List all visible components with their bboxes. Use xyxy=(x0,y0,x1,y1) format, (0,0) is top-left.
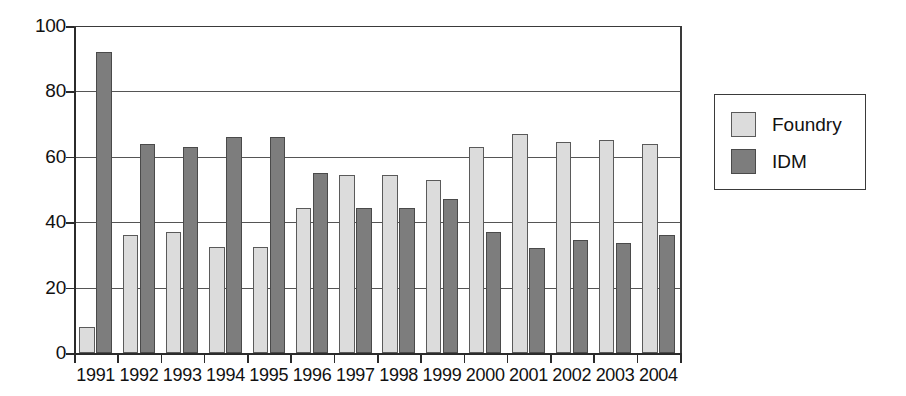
x-tick-mark xyxy=(464,354,466,363)
x-tick-mark xyxy=(161,354,163,363)
y-tick-label: 60 xyxy=(14,147,66,166)
x-tick-mark xyxy=(247,354,249,363)
bar-foundry-2000 xyxy=(469,147,485,353)
bar-foundry-1994 xyxy=(209,247,225,353)
bar-foundry-1991 xyxy=(79,327,95,353)
bar-foundry-2002 xyxy=(556,142,572,353)
legend-label-idm: IDM xyxy=(772,152,807,171)
y-tick-label: 80 xyxy=(14,81,66,100)
x-tick-label: 2004 xyxy=(632,364,684,386)
legend-swatch-idm-icon xyxy=(731,149,756,174)
legend-entry-idm: IDM xyxy=(731,149,807,174)
legend: Foundry IDM xyxy=(714,94,866,190)
y-tick-label: 100 xyxy=(14,16,66,35)
bars-layer xyxy=(74,26,680,353)
bar-idm-1996 xyxy=(313,173,329,353)
bar-foundry-1993 xyxy=(166,232,182,353)
bar-idm-1995 xyxy=(270,137,286,353)
bar-idm-2000 xyxy=(486,232,502,353)
bar-foundry-2003 xyxy=(599,140,615,353)
legend-swatch-foundry-icon xyxy=(731,112,756,137)
bar-foundry-1997 xyxy=(339,175,355,353)
x-tick-mark xyxy=(550,354,552,363)
bar-idm-1999 xyxy=(443,199,459,353)
bar-idm-1991 xyxy=(96,52,112,353)
x-tick-mark xyxy=(507,354,509,363)
y-tick-label: 40 xyxy=(14,212,66,231)
x-tick-mark xyxy=(637,354,639,363)
plot-region: 020406080100 199119921993199419951996199… xyxy=(0,0,700,396)
x-tick-mark xyxy=(680,354,682,363)
bar-idm-1992 xyxy=(140,144,156,353)
bar-foundry-1995 xyxy=(253,247,269,353)
x-tick-mark xyxy=(204,354,206,363)
x-tick-mark xyxy=(74,354,76,363)
x-tick-mark xyxy=(290,354,292,363)
x-tick-mark xyxy=(593,354,595,363)
legend-entry-foundry: Foundry xyxy=(731,112,842,137)
x-tick-mark xyxy=(377,354,379,363)
x-tick-mark xyxy=(420,354,422,363)
plot-frame-right xyxy=(680,26,682,354)
bar-foundry-1998 xyxy=(382,175,398,353)
bar-idm-1994 xyxy=(226,137,242,353)
bar-idm-2004 xyxy=(659,235,675,353)
bar-foundry-1999 xyxy=(426,180,442,353)
bar-idm-1993 xyxy=(183,147,199,353)
bar-idm-2001 xyxy=(529,248,545,353)
bar-idm-1998 xyxy=(399,208,415,354)
y-tick-label: 20 xyxy=(14,278,66,297)
bar-chart: 020406080100 199119921993199419951996199… xyxy=(0,0,906,396)
bar-foundry-2001 xyxy=(512,134,528,353)
x-axis-line xyxy=(66,353,682,355)
bar-foundry-1992 xyxy=(123,235,139,353)
bar-idm-1997 xyxy=(356,208,372,354)
legend-label-foundry: Foundry xyxy=(772,115,842,134)
y-tick-label: 0 xyxy=(14,343,66,362)
x-tick-mark xyxy=(117,354,119,363)
x-tick-mark xyxy=(334,354,336,363)
bar-idm-2002 xyxy=(573,240,589,353)
bar-foundry-1996 xyxy=(296,208,312,354)
x-axis-labels: 1991199219931994199519961997199819992000… xyxy=(0,364,700,394)
bar-idm-2003 xyxy=(616,243,632,353)
bar-foundry-2004 xyxy=(642,144,658,353)
y-axis-labels: 020406080100 xyxy=(14,0,66,396)
